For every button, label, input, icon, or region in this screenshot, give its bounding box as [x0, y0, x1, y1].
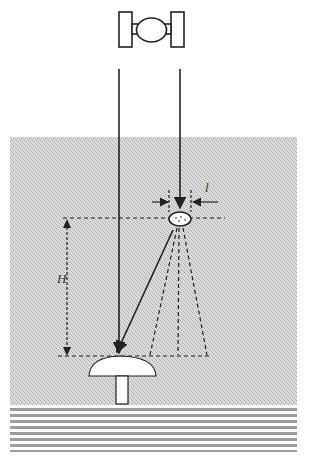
seabed-stripes [10, 405, 297, 452]
width-label: l [205, 180, 209, 196]
diagram-canvas [0, 0, 309, 462]
satellite-icon [119, 12, 184, 47]
target-ellipse [169, 212, 191, 226]
height-label: H [57, 271, 66, 287]
